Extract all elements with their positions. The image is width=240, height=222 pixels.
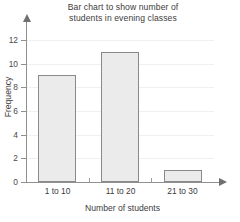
y-axis-tick [21, 87, 27, 88]
x-axis-line [26, 182, 219, 183]
y-axis-tick [21, 135, 27, 136]
chart-title: Bar chart to show number of students in … [28, 2, 218, 24]
x-axis-arrow-icon [219, 178, 227, 186]
y-axis-tick [21, 40, 27, 41]
gridline [26, 40, 214, 41]
y-axis-tick-label: 2 [2, 153, 18, 163]
plot-area [26, 28, 214, 182]
chart-title-line-2: students in evening classes [28, 13, 218, 24]
bar-chart: Bar chart to show number of students in … [0, 0, 240, 222]
chart-title-line-1: Bar chart to show number of [28, 2, 218, 13]
y-axis-title: Frequency [3, 60, 13, 134]
x-axis-tick [89, 178, 90, 183]
y-axis-tick [21, 182, 27, 183]
y-axis-tick-label: 0 [2, 177, 18, 187]
y-axis-arrow-icon [23, 14, 31, 22]
x-axis-tick [151, 178, 152, 183]
y-axis-tick-label: 12 [2, 35, 18, 45]
x-axis-title: Number of students [26, 203, 219, 213]
bar [164, 170, 202, 182]
y-axis-tick [21, 158, 27, 159]
x-axis-category-label: 11 to 20 [89, 186, 152, 196]
bar [38, 75, 76, 182]
y-axis-tick [21, 111, 27, 112]
x-axis-category-label: 1 to 10 [26, 186, 89, 196]
x-axis-category-label: 21 to 30 [151, 186, 214, 196]
bar [101, 52, 139, 182]
y-axis-tick [21, 64, 27, 65]
